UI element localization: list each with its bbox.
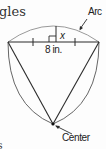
arc-label: Arc bbox=[88, 7, 102, 17]
segment-height-label: x bbox=[60, 31, 65, 41]
right-angle-icon bbox=[49, 36, 56, 42]
textbook-page-crop: gles s Arc x 8 in. Center bbox=[0, 0, 106, 149]
center-point-icon bbox=[51, 122, 54, 125]
arc-curve bbox=[8, 26, 99, 42]
circle-sector-diagram bbox=[0, 0, 106, 149]
chord-length-label: 8 in. bbox=[45, 45, 62, 55]
center-label: Center bbox=[62, 133, 90, 143]
